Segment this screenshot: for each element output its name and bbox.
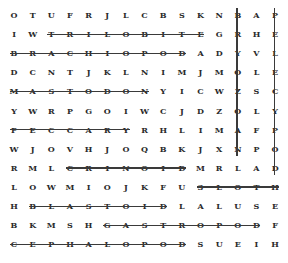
- grid-letter[interactable]: J: [98, 142, 116, 156]
- grid-letter[interactable]: S: [173, 8, 191, 22]
- grid-letter[interactable]: I: [5, 27, 23, 41]
- grid-letter[interactable]: S: [192, 237, 210, 251]
- grid-letter[interactable]: N: [210, 8, 228, 22]
- grid-letter[interactable]: N: [136, 65, 154, 79]
- grid-letter[interactable]: L: [247, 65, 265, 79]
- grid-letter[interactable]: A: [247, 8, 265, 22]
- grid-letter[interactable]: N: [229, 142, 247, 156]
- grid-letter[interactable]: D: [266, 161, 284, 175]
- grid-letter[interactable]: L: [173, 199, 191, 213]
- grid-letter[interactable]: O: [24, 180, 42, 194]
- grid-letter[interactable]: I: [192, 123, 210, 137]
- grid-letter[interactable]: Y: [266, 104, 284, 118]
- grid-letter[interactable]: Z: [229, 84, 247, 98]
- grid-letter[interactable]: F: [247, 123, 265, 137]
- grid-letter[interactable]: C: [192, 84, 210, 98]
- grid-letter[interactable]: O: [98, 104, 116, 118]
- grid-letter[interactable]: O: [229, 104, 247, 118]
- grid-letter[interactable]: H: [247, 27, 265, 41]
- grid-letter[interactable]: S: [247, 84, 265, 98]
- grid-letter[interactable]: M: [210, 123, 228, 137]
- grid-letter[interactable]: B: [5, 218, 23, 232]
- grid-letter[interactable]: I: [173, 84, 191, 98]
- grid-letter[interactable]: E: [229, 237, 247, 251]
- grid-letter[interactable]: L: [229, 161, 247, 175]
- grid-letter[interactable]: J: [173, 104, 191, 118]
- grid-letter[interactable]: Y: [5, 104, 23, 118]
- grid-letter[interactable]: P: [266, 123, 284, 137]
- grid-letter[interactable]: J: [117, 180, 135, 194]
- grid-letter[interactable]: X: [210, 142, 228, 156]
- grid-letter[interactable]: R: [136, 123, 154, 137]
- grid-letter[interactable]: Z: [210, 104, 228, 118]
- grid-letter[interactable]: J: [192, 142, 210, 156]
- grid-letter[interactable]: P: [61, 104, 79, 118]
- grid-letter[interactable]: F: [266, 218, 284, 232]
- grid-letter[interactable]: S: [61, 218, 79, 232]
- grid-letter[interactable]: M: [192, 161, 210, 175]
- grid-letter[interactable]: R: [5, 161, 23, 175]
- grid-letter[interactable]: R: [42, 104, 60, 118]
- grid-letter[interactable]: K: [98, 65, 116, 79]
- grid-letter[interactable]: W: [42, 180, 60, 194]
- grid-letter[interactable]: M: [42, 218, 60, 232]
- grid-letter[interactable]: G: [80, 104, 98, 118]
- grid-letter[interactable]: D: [192, 104, 210, 118]
- grid-letter[interactable]: R: [210, 161, 228, 175]
- grid-letter[interactable]: Y: [154, 84, 172, 98]
- grid-letter[interactable]: L: [247, 104, 265, 118]
- grid-letter[interactable]: H: [154, 123, 172, 137]
- grid-letter[interactable]: O: [98, 180, 116, 194]
- grid-letter[interactable]: B: [154, 8, 172, 22]
- grid-letter[interactable]: M: [173, 65, 191, 79]
- grid-letter[interactable]: M: [24, 161, 42, 175]
- grid-letter[interactable]: E: [266, 27, 284, 41]
- grid-letter[interactable]: D: [5, 65, 23, 79]
- grid-letter[interactable]: K: [192, 8, 210, 22]
- grid-letter[interactable]: K: [136, 180, 154, 194]
- grid-letter[interactable]: J: [98, 8, 116, 22]
- grid-letter[interactable]: N: [42, 65, 60, 79]
- grid-letter[interactable]: W: [210, 84, 228, 98]
- grid-letter[interactable]: S: [247, 199, 265, 213]
- grid-letter[interactable]: Y: [229, 46, 247, 60]
- grid-letter[interactable]: L: [210, 199, 228, 213]
- grid-letter[interactable]: U: [210, 237, 228, 251]
- grid-letter[interactable]: I: [117, 104, 135, 118]
- grid-letter[interactable]: J: [80, 65, 98, 79]
- grid-letter[interactable]: A: [192, 199, 210, 213]
- grid-letter[interactable]: H: [266, 237, 284, 251]
- grid-letter[interactable]: H: [5, 199, 23, 213]
- grid-letter[interactable]: C: [24, 65, 42, 79]
- grid-letter[interactable]: B: [154, 142, 172, 156]
- grid-letter[interactable]: L: [117, 65, 135, 79]
- grid-letter[interactable]: I: [80, 180, 98, 194]
- grid-letter[interactable]: B: [229, 8, 247, 22]
- grid-letter[interactable]: H: [80, 142, 98, 156]
- grid-letter[interactable]: H: [80, 218, 98, 232]
- grid-letter[interactable]: R: [80, 8, 98, 22]
- grid-letter[interactable]: W: [5, 142, 23, 156]
- grid-letter[interactable]: C: [154, 104, 172, 118]
- grid-letter[interactable]: C: [266, 84, 284, 98]
- grid-letter[interactable]: F: [154, 180, 172, 194]
- grid-letter[interactable]: O: [266, 142, 284, 156]
- grid-letter[interactable]: M: [61, 180, 79, 194]
- grid-letter[interactable]: M: [210, 65, 228, 79]
- grid-letter[interactable]: A: [192, 46, 210, 60]
- grid-letter[interactable]: P: [266, 8, 284, 22]
- grid-letter[interactable]: W: [24, 104, 42, 118]
- grid-letter[interactable]: G: [210, 27, 228, 41]
- grid-letter[interactable]: I: [247, 237, 265, 251]
- grid-letter[interactable]: K: [24, 218, 42, 232]
- grid-letter[interactable]: E: [266, 199, 284, 213]
- grid-letter[interactable]: E: [266, 65, 284, 79]
- grid-letter[interactable]: K: [173, 142, 191, 156]
- grid-letter[interactable]: T: [24, 8, 42, 22]
- grid-letter[interactable]: C: [136, 8, 154, 22]
- grid-letter[interactable]: V: [61, 142, 79, 156]
- grid-letter[interactable]: U: [229, 199, 247, 213]
- grid-letter[interactable]: O: [229, 65, 247, 79]
- grid-letter[interactable]: J: [24, 142, 42, 156]
- grid-letter[interactable]: T: [61, 65, 79, 79]
